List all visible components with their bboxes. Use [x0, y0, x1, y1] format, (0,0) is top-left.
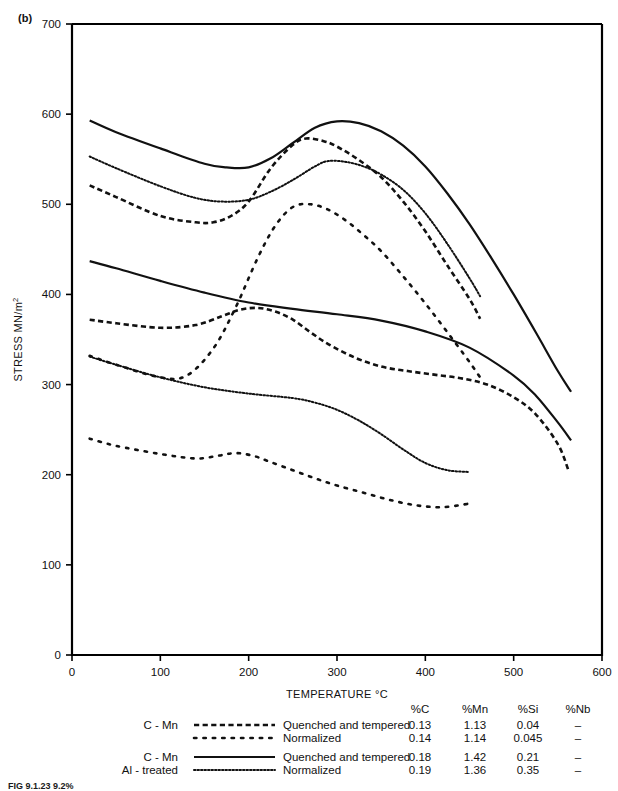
legend-value-si: 0.04 — [517, 719, 540, 731]
legend-column-header: %Nb — [566, 703, 591, 715]
legend-condition-label: Normalized — [283, 732, 341, 744]
x-tick-label: 500 — [504, 666, 523, 678]
y-tick-label: 600 — [42, 108, 61, 120]
panel-label: (b) — [18, 12, 32, 24]
legend-value-mn: 1.14 — [464, 732, 487, 744]
legend-value-mn: 1.36 — [464, 764, 486, 776]
legend-condition-label: Normalized — [283, 764, 341, 776]
legend-value-c: 0.14 — [409, 732, 432, 744]
legend-value-nb: – — [575, 732, 582, 744]
legend-value-c: 0.19 — [409, 764, 431, 776]
figure-caption-text: FIG 9.1.23 9.2% — [8, 781, 74, 791]
legend-material-label: C - Mn — [144, 751, 179, 763]
x-axis-title: TEMPERATURE °C — [286, 688, 388, 700]
y-tick-label: 100 — [42, 559, 61, 571]
legend-value-nb: – — [575, 764, 582, 776]
y-tick-label: 200 — [42, 469, 61, 481]
y-tick-label: 300 — [42, 379, 61, 391]
legend-column-header: %Mn — [462, 703, 488, 715]
x-tick-label: 600 — [592, 666, 611, 678]
figure-panel-b: 0100200300400500600700010020030040050060… — [0, 0, 618, 791]
legend-value-nb: – — [575, 719, 582, 731]
figure-background — [0, 0, 618, 791]
y-tick-label: 400 — [42, 288, 61, 300]
y-tick-label: 700 — [42, 18, 61, 30]
y-axis-title: STRESS MN/m2 — [11, 297, 24, 381]
legend-material-label: Al - treated — [122, 764, 178, 776]
legend-value-c: 0.13 — [409, 719, 431, 731]
x-tick-label: 200 — [239, 666, 258, 678]
legend-column-header: %C — [411, 703, 430, 715]
legend-value-si: 0.35 — [517, 764, 539, 776]
y-tick-label: 0 — [55, 649, 61, 661]
x-tick-label: 100 — [151, 666, 170, 678]
legend-value-mn: 1.42 — [464, 751, 486, 763]
legend-column-header: %Si — [518, 703, 538, 715]
legend-value-nb: – — [575, 751, 582, 763]
x-tick-label: 300 — [327, 666, 346, 678]
y-tick-label: 500 — [42, 198, 61, 210]
figure-caption: FIG 9.1.23 9.2% — [8, 781, 74, 791]
y-axis-title-superscript: 2 — [11, 297, 20, 301]
stress-temperature-chart: 0100200300400500600700010020030040050060… — [0, 0, 618, 791]
svg-text:STRESS MN/m2: STRESS MN/m2 — [11, 297, 24, 381]
x-tick-label: 0 — [69, 666, 75, 678]
legend-material-label: C - Mn — [144, 719, 179, 731]
legend-value-si: 0.045 — [514, 732, 543, 744]
x-tick-label: 400 — [416, 666, 435, 678]
legend-condition-label: Quenched and tempered — [283, 751, 410, 763]
legend-condition-label: Quenched and tempered — [283, 719, 410, 731]
legend-value-c: 0.18 — [409, 751, 431, 763]
legend-value-si: 0.21 — [517, 751, 539, 763]
legend-value-mn: 1.13 — [464, 719, 486, 731]
